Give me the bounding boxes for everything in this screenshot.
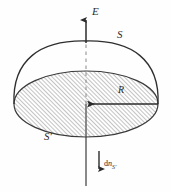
lower-surface-label: S′ (44, 131, 52, 142)
hemisphere-diagram-canvas (0, 0, 171, 192)
physics-figure: — – ——— (0, 0, 171, 192)
normal-element-subscript: S′ (112, 164, 116, 170)
upper-surface-label: S (117, 29, 123, 40)
radius-label: R (118, 85, 124, 95)
normal-element-label: dnS′ (104, 160, 116, 170)
field-vector-label: E (92, 6, 99, 17)
